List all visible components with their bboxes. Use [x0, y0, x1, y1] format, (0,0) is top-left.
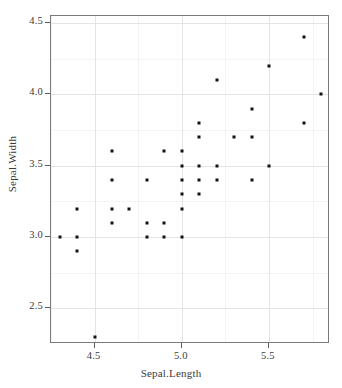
data-point	[76, 236, 79, 239]
data-point	[180, 164, 183, 167]
gridline	[51, 237, 328, 238]
data-point	[215, 164, 218, 167]
data-point	[111, 179, 114, 182]
data-point	[145, 236, 148, 239]
data-point	[198, 136, 201, 139]
x-axis-label: Sepal.Length	[0, 367, 342, 379]
gridline	[313, 16, 314, 342]
data-point	[233, 136, 236, 139]
data-point	[320, 93, 323, 96]
gridline	[51, 201, 328, 202]
data-point	[250, 107, 253, 110]
data-point	[215, 179, 218, 182]
data-point	[198, 193, 201, 196]
data-point	[180, 150, 183, 153]
gridline	[51, 308, 328, 309]
gridline	[51, 273, 328, 274]
data-point	[250, 136, 253, 139]
data-point	[180, 179, 183, 182]
y-tick-label: 2.5	[2, 300, 43, 311]
gridline	[51, 94, 328, 95]
data-point	[76, 207, 79, 210]
data-point	[180, 207, 183, 210]
y-tick-label: 3.0	[2, 229, 43, 240]
data-point	[180, 236, 183, 239]
data-point	[58, 236, 61, 239]
scatter-plot-figure: 2.53.03.54.04.54.55.05.5 Sepal.Length Se…	[0, 0, 342, 388]
data-point	[111, 221, 114, 224]
data-point	[145, 179, 148, 182]
data-point	[163, 236, 166, 239]
gridline	[95, 16, 96, 342]
data-point	[180, 193, 183, 196]
y-tick-mark	[45, 22, 50, 23]
data-point	[267, 64, 270, 67]
y-tick-mark	[45, 93, 50, 94]
y-tick-label: 4.0	[2, 86, 43, 97]
y-tick-mark	[45, 236, 50, 237]
data-point	[128, 207, 131, 210]
x-tick-label: 5.0	[161, 350, 201, 361]
x-tick-label: 4.5	[74, 350, 114, 361]
plot-panel	[50, 15, 329, 343]
y-tick-mark	[45, 165, 50, 166]
x-tick-mark	[94, 343, 95, 348]
gridline	[51, 59, 328, 60]
data-point	[250, 179, 253, 182]
data-point	[163, 150, 166, 153]
y-tick-mark	[45, 307, 50, 308]
y-tick-label: 4.5	[2, 15, 43, 26]
x-tick-mark	[181, 343, 182, 348]
data-point	[215, 79, 218, 82]
data-point	[302, 36, 305, 39]
gridline	[51, 23, 328, 24]
gridline	[225, 16, 226, 342]
gridline	[51, 16, 52, 342]
data-point	[145, 221, 148, 224]
data-point	[267, 164, 270, 167]
data-point	[302, 121, 305, 124]
gridline	[138, 16, 139, 342]
data-point	[198, 121, 201, 124]
data-point	[111, 207, 114, 210]
x-tick-label: 5.5	[248, 350, 288, 361]
y-axis-label: Sepal.Width	[6, 114, 18, 214]
data-point	[198, 164, 201, 167]
x-tick-mark	[268, 343, 269, 348]
data-point	[163, 221, 166, 224]
data-point	[76, 250, 79, 253]
data-point	[198, 179, 201, 182]
gridline	[51, 166, 328, 167]
data-point	[111, 150, 114, 153]
gridline	[51, 130, 328, 131]
data-point	[93, 335, 96, 338]
